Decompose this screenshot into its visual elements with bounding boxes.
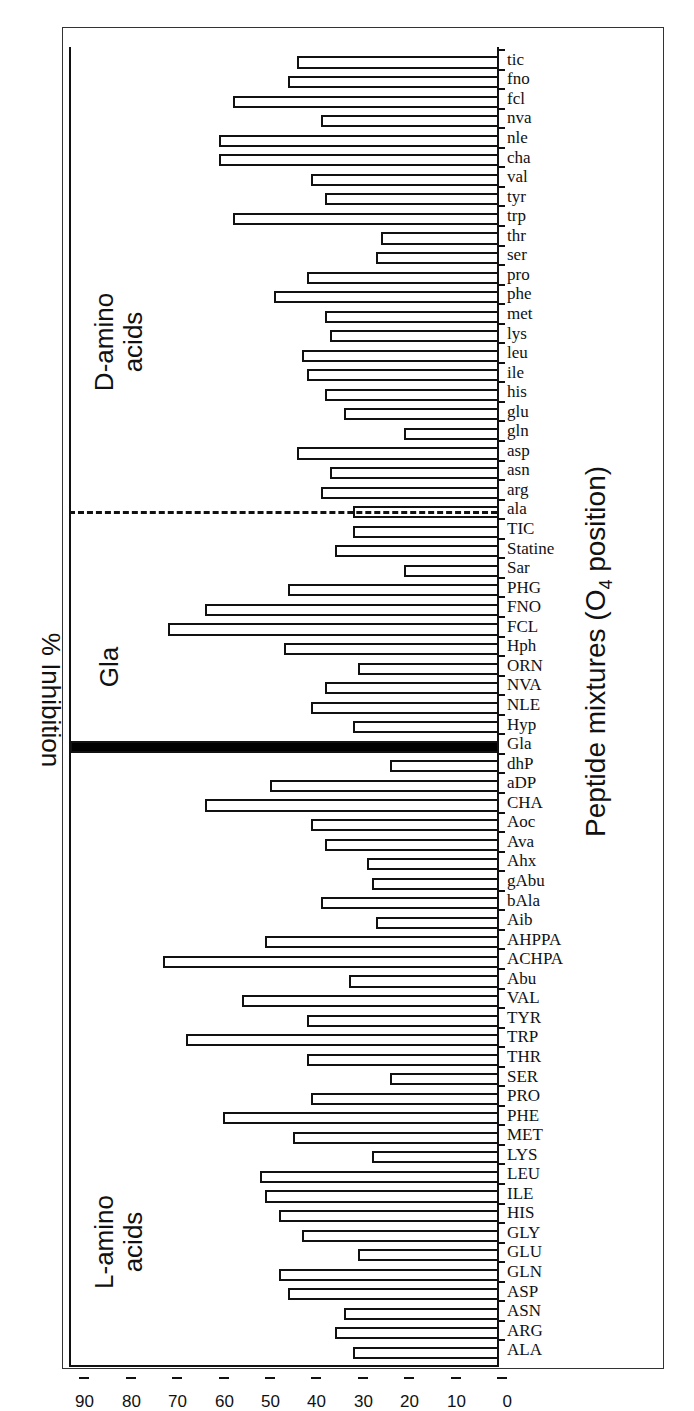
group-label-gla: Gla — [95, 627, 124, 707]
bar-met — [293, 1132, 497, 1144]
x-label-phe: phe — [507, 285, 532, 302]
x-label-bala: bAla — [507, 892, 540, 909]
x-label-nle: NLE — [507, 696, 540, 713]
y-tick-label: 80 — [111, 1392, 141, 1411]
x-label-gln: gln — [507, 422, 529, 439]
bar-ile — [265, 1190, 497, 1202]
bar-leu — [260, 1171, 497, 1183]
bar-asn — [330, 467, 497, 479]
bar-statine — [335, 545, 497, 557]
bar-thr — [381, 232, 497, 244]
x-label-trp: trp — [507, 207, 526, 224]
x-label-asp: ASP — [507, 1283, 538, 1300]
bar-fcl — [168, 623, 497, 635]
x-label-ava: Ava — [507, 833, 534, 850]
bar-gln — [404, 428, 497, 440]
bar-glu — [344, 408, 497, 420]
bar-arg — [321, 487, 497, 499]
x-label-adp: aDP — [507, 774, 536, 791]
bar-phg — [288, 584, 497, 596]
bar-ala — [353, 1347, 497, 1359]
bar-ser — [376, 252, 497, 264]
x-label-lys: lys — [507, 325, 527, 342]
x-label-val: VAL — [507, 989, 540, 1006]
x-label-phg: PHG — [507, 579, 541, 596]
y-tick — [497, 1377, 507, 1379]
divider-dashed — [69, 511, 497, 514]
y-tick-label: 30 — [343, 1392, 373, 1411]
bar-ser — [390, 1073, 497, 1085]
x-label-pro: pro — [507, 266, 530, 283]
bar-tic — [297, 56, 497, 68]
bar-ahx — [367, 858, 497, 870]
bar-phe — [223, 1112, 497, 1124]
bar-bala — [321, 897, 497, 909]
x-label-orn: ORN — [507, 657, 543, 674]
y-tick — [404, 1377, 414, 1379]
x-label-dhp: dhP — [507, 755, 533, 772]
bar-fcl — [233, 96, 497, 108]
bar-gln — [279, 1269, 497, 1281]
y-tick — [172, 1377, 182, 1379]
x-label-tyr: tyr — [507, 188, 526, 205]
bar-lys — [372, 1151, 497, 1163]
zero-axis-line — [497, 47, 499, 1367]
x-label-arg: arg — [507, 481, 528, 498]
x-label-nva: nva — [507, 109, 532, 126]
bar-tyr — [325, 193, 497, 205]
bar-hph — [284, 643, 497, 655]
bar-aib — [376, 917, 497, 929]
x-label-hyp: Hyp — [507, 716, 536, 733]
x-label-fno: FNO — [507, 598, 541, 615]
x-axis-title: Peptide mixtures (O4 position) — [580, 466, 617, 837]
x-label-abu: Abu — [507, 970, 536, 987]
bar-trp — [233, 213, 497, 225]
x-label-tic: tic — [507, 51, 524, 68]
bar-cha — [219, 154, 497, 166]
x-label-thr: thr — [507, 227, 526, 244]
bar-achpa — [163, 956, 497, 968]
y-tick — [311, 1377, 321, 1379]
bar-tyr — [307, 1015, 497, 1027]
y-tick-label: 10 — [436, 1392, 466, 1411]
y-axis-title-rot: % Inhibition — [20, 600, 80, 800]
y-tick — [358, 1377, 368, 1379]
x-label-his: his — [507, 383, 527, 400]
x-label-statine: Statine — [507, 540, 554, 557]
x-label-arg: ARG — [507, 1322, 543, 1339]
x-label-val: val — [507, 168, 528, 185]
bar-arg — [335, 1327, 497, 1339]
x-label-ile: ILE — [507, 1185, 533, 1202]
x-label-lys: LYS — [507, 1146, 537, 1163]
x-label-his: HIS — [507, 1204, 534, 1221]
x-label-met: MET — [507, 1126, 543, 1143]
y-tick-label: 40 — [296, 1392, 326, 1411]
x-label-ile: ile — [507, 364, 524, 381]
bar-adp — [270, 780, 497, 792]
bar-dhp — [390, 760, 497, 772]
bar-ava — [325, 839, 497, 851]
x-label-ser: ser — [507, 246, 527, 263]
x-label-pro: PRO — [507, 1087, 540, 1104]
x-label-fcl: FCL — [507, 618, 538, 635]
bar-ile — [307, 369, 497, 381]
bar-tic — [353, 526, 497, 538]
x-label-asp: asp — [507, 442, 530, 459]
bar-orn — [358, 663, 497, 675]
x-label-phe: PHE — [507, 1107, 539, 1124]
bar-val — [242, 995, 497, 1007]
bar-nva — [321, 115, 497, 127]
bar-sar — [404, 565, 497, 577]
bar-gabu — [372, 878, 497, 890]
bar-his — [279, 1210, 497, 1222]
group-label-l-amino: L-amino acids — [90, 1147, 147, 1337]
bar-lys — [330, 330, 497, 342]
x-label-fno: fno — [507, 70, 530, 87]
x-label-leu: leu — [507, 344, 528, 361]
x-label-asn: asn — [507, 461, 530, 478]
bar-cha — [205, 799, 497, 811]
x-label-nva: NVA — [507, 676, 542, 693]
x-label-glu: GLU — [507, 1244, 542, 1261]
x-label-gabu: gAbu — [507, 872, 545, 889]
